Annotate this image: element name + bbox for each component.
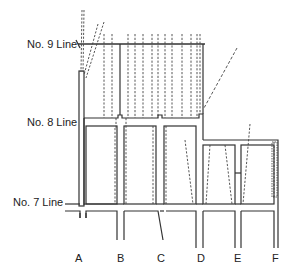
middle-panels — [86, 118, 196, 204]
upper-panel-dashed-lines — [81, 10, 237, 118]
column-label-e: E — [234, 252, 241, 264]
no7-line-drift — [65, 204, 274, 248]
column-label-d: D — [197, 252, 205, 264]
no8-line-label: No. 8 Line — [27, 116, 77, 128]
column-label-b: B — [117, 252, 124, 264]
no9-line-heading — [76, 40, 205, 48]
column-label-f: F — [272, 252, 279, 264]
mine-layout-diagram: No. 9 Line No. 8 Line No. 7 Line A B C D… — [0, 0, 293, 274]
no7-line-label: No. 7 Line — [13, 196, 63, 208]
column-label-a: A — [75, 252, 83, 264]
column-label-c: C — [157, 252, 165, 264]
no9-line-label: No. 9 Line — [27, 38, 77, 50]
column-a-drift — [79, 71, 86, 218]
